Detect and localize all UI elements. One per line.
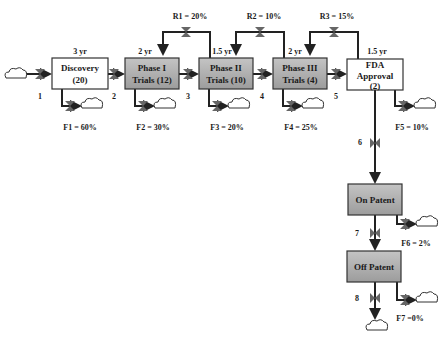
stock-phase1: Phase I Trials (12) — [125, 58, 179, 89]
source-cloud-icon — [5, 68, 27, 78]
stock-phase2: Phase II Trials (10) — [199, 58, 253, 89]
svg-text:2 yr: 2 yr — [138, 47, 152, 56]
svg-text:8: 8 — [355, 294, 359, 303]
svg-text:Discovery: Discovery — [61, 63, 99, 73]
stock-fda-approval: FDA Approval (2) — [347, 59, 403, 91]
svg-text:5: 5 — [334, 92, 338, 101]
svg-text:On Patent: On Patent — [355, 195, 394, 205]
svg-text:(20): (20) — [73, 75, 88, 85]
svg-text:Phase II: Phase II — [210, 63, 242, 73]
duration-labels: 3 yr 2 yr 1.5 yr 2 yr 1.5 yr — [73, 47, 387, 56]
recycle-labels: R1 = 20% R2 = 10% R3 = 15% — [173, 12, 354, 21]
svg-text:Off Patent: Off Patent — [354, 262, 394, 272]
pipeline-diagram: Discovery (20) Phase I Trials (12) Phase… — [0, 0, 447, 345]
svg-text:F3 = 20%: F3 = 20% — [210, 123, 243, 132]
svg-text:3: 3 — [186, 92, 190, 101]
recycle-loops — [163, 27, 358, 59]
svg-text:Trials (4): Trials (4) — [282, 75, 317, 85]
svg-text:Phase III: Phase III — [282, 63, 318, 73]
stock-on-patent: On Patent — [348, 184, 402, 215]
stock-phase3: Phase III Trials (4) — [273, 58, 327, 89]
svg-text:2: 2 — [112, 92, 116, 101]
svg-text:4: 4 — [260, 92, 264, 101]
svg-text:F6 = 2%: F6 = 2% — [401, 239, 430, 248]
svg-text:R3 = 15%: R3 = 15% — [320, 12, 354, 21]
svg-text:3 yr: 3 yr — [73, 47, 87, 56]
svg-text:(2): (2) — [370, 81, 381, 91]
svg-text:R1 = 20%: R1 = 20% — [173, 12, 207, 21]
svg-text:F1 = 60%: F1 = 60% — [63, 123, 96, 132]
svg-text:F4 = 25%: F4 = 25% — [284, 123, 317, 132]
svg-text:F7 =0%: F7 =0% — [396, 314, 423, 323]
stock-discovery: Discovery (20) — [52, 58, 108, 89]
svg-text:7: 7 — [355, 229, 359, 238]
svg-text:1.5 yr: 1.5 yr — [367, 47, 387, 56]
svg-text:Phase I: Phase I — [138, 63, 167, 73]
svg-text:Trials (10): Trials (10) — [206, 75, 246, 85]
svg-text:Approval: Approval — [357, 71, 394, 81]
svg-text:F5 = 10%: F5 = 10% — [395, 123, 428, 132]
svg-text:1.5 yr: 1.5 yr — [212, 47, 232, 56]
svg-text:2 yr: 2 yr — [288, 47, 302, 56]
svg-text:R2 = 10%: R2 = 10% — [247, 12, 281, 21]
svg-text:FDA: FDA — [366, 60, 385, 70]
svg-text:Trials (12): Trials (12) — [132, 75, 172, 85]
svg-text:F2 = 30%: F2 = 30% — [136, 123, 169, 132]
stock-off-patent: Off Patent — [347, 251, 401, 282]
svg-text:6: 6 — [358, 138, 362, 147]
svg-text:1: 1 — [38, 92, 42, 101]
